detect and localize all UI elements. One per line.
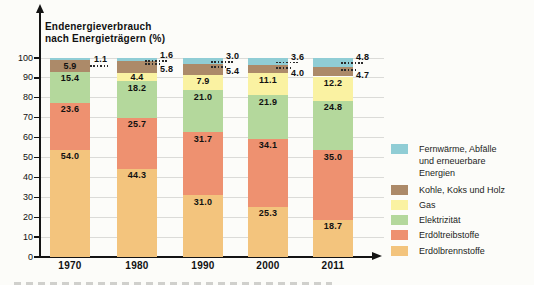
y-axis-arrow-icon: [36, 4, 44, 13]
bar-value-label: 18.7: [313, 222, 353, 231]
y-axis: [39, 12, 41, 258]
callout-leader-line: [145, 60, 169, 62]
legend-item: Kohle, Koks und Holz: [391, 184, 505, 196]
y-tick-label: 30: [7, 193, 33, 202]
y-tick-label: 80: [7, 93, 33, 102]
x-category-label: 1990: [173, 261, 233, 271]
bar-value-label: 25.3: [248, 209, 288, 218]
y-tick-label: 40: [7, 173, 33, 182]
bar-segment: [50, 150, 90, 257]
y-tick-label: 0: [7, 253, 33, 262]
bar-value-label: 35.0: [313, 153, 353, 162]
y-tick-label: 50: [7, 153, 33, 162]
chart-title-line2: nach Energieträgern (%): [45, 33, 165, 45]
y-tick-label: 10: [7, 233, 33, 242]
x-category-label: 1980: [107, 261, 167, 271]
legend-item: Elektrizität: [391, 214, 461, 226]
legend-label: Kohle, Koks und Holz: [419, 184, 505, 196]
legend-label: Gas: [419, 199, 436, 211]
y-tick-label: 100: [7, 54, 33, 63]
callout-leader-line: [341, 69, 356, 71]
y-tick: [34, 157, 40, 158]
bar-value-label: 7.9: [183, 77, 223, 86]
callout-value-label: 1.1: [94, 55, 107, 64]
legend-label: Erdölbrennstoffe: [419, 245, 485, 257]
y-tick: [34, 177, 40, 178]
bar-value-label: 31.7: [183, 135, 223, 144]
bar-value-label: 11.1: [248, 76, 288, 85]
legend-label: Erdöltreibstoffe: [419, 229, 479, 241]
y-tick-label: 70: [7, 113, 33, 122]
bar-value-label: 31.0: [183, 198, 223, 207]
legend-item: Erdöltreibstoffe: [391, 229, 479, 241]
y-tick: [34, 137, 40, 138]
y-tick: [34, 197, 40, 198]
x-category-label: 2000: [238, 261, 298, 271]
callout-value-label: 5.4: [226, 67, 239, 76]
bar-value-label: 21.9: [248, 98, 288, 107]
legend-swatch: [391, 230, 408, 240]
y-tick: [34, 57, 40, 58]
bar-value-label: 25.7: [117, 120, 157, 129]
bar-value-label: 5.9: [50, 62, 90, 71]
legend-swatch: [391, 144, 408, 154]
bar-value-label: 44.3: [117, 171, 157, 180]
callout-leader-line: [211, 61, 235, 63]
callout-value-label: 3.6: [291, 53, 304, 62]
callout-leader-line: [276, 67, 291, 69]
bar-value-label: 18.2: [117, 84, 157, 93]
x-axis-arrow-icon: [372, 252, 382, 260]
y-tick-label: 60: [7, 133, 33, 142]
bar-value-label: 15.4: [50, 74, 90, 83]
callout-leader-line: [211, 66, 226, 68]
callout-value-label: 4.7: [356, 71, 369, 80]
chart-title-line1: Endenergieverbrauch: [45, 21, 165, 33]
chart-title: Endenergieverbrauch nach Energieträgern …: [45, 21, 165, 45]
y-tick: [34, 97, 40, 98]
figure: Endenergieverbrauch nach Energieträgern …: [0, 0, 534, 285]
bar-value-label: 54.0: [50, 152, 90, 161]
callout-value-label: 4.8: [356, 53, 369, 62]
bar-value-label: 34.1: [248, 141, 288, 150]
x-category-label: 2011: [303, 261, 363, 271]
bar-value-label: 4.4: [117, 73, 157, 82]
legend-label: Fernwärme, Abfälleund erneuerbareEnergie…: [419, 143, 497, 179]
callout-value-label: 4.0: [291, 69, 304, 78]
legend-item: Gas: [391, 199, 436, 211]
callout-leader-line: [90, 65, 108, 67]
callout-value-label: 1.6: [160, 51, 173, 60]
y-tick: [34, 217, 40, 218]
legend-item: Erdölbrennstoffe: [391, 245, 485, 257]
callout-value-label: 3.0: [226, 52, 239, 61]
callout-leader-line: [341, 62, 365, 64]
legend-item: Fernwärme, Abfälleund erneuerbareEnergie…: [391, 143, 497, 179]
x-category-label: 1970: [40, 261, 100, 271]
legend-swatch: [391, 200, 408, 210]
callout-leader-line: [145, 63, 160, 65]
y-tick-label: 20: [7, 213, 33, 222]
y-tick: [34, 236, 40, 237]
y-tick: [34, 256, 40, 257]
legend-swatch: [391, 215, 408, 225]
callout-value-label: 5.8: [160, 65, 173, 74]
bar-value-label: 21.0: [183, 93, 223, 102]
bar-value-label: 12.2: [313, 79, 353, 88]
bar-segment: [50, 58, 90, 60]
bar-value-label: 23.6: [50, 105, 90, 114]
legend-swatch: [391, 246, 408, 256]
legend-swatch: [391, 185, 408, 195]
y-tick: [34, 77, 40, 78]
y-tick-label: 90: [7, 73, 33, 82]
bar-segment: [117, 169, 157, 257]
legend-label: Elektrizität: [419, 214, 461, 226]
callout-leader-line: [276, 62, 300, 64]
y-tick: [34, 117, 40, 118]
bar-value-label: 24.8: [313, 103, 353, 112]
